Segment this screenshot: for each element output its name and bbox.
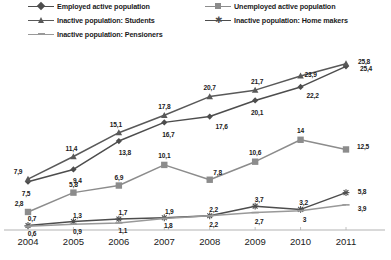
x-axis-tick-2006: 2006 <box>108 236 129 247</box>
legend-label-inactive-students: Inactive population: Students <box>57 16 155 25</box>
data-label: 1,8 <box>164 222 173 229</box>
data-label: 16,7 <box>162 131 174 138</box>
legend-item-inactive-home-makers: ✱ Inactive population: Home makers <box>205 16 348 25</box>
data-label: 1,3 <box>73 211 82 218</box>
data-label: 2,7 <box>255 217 264 224</box>
data-label: 13,8 <box>119 149 131 156</box>
data-label: 25,4 <box>360 65 372 72</box>
data-label: 17,6 <box>216 122 228 129</box>
legend-swatch-inactive-home-makers: ✱ <box>205 16 231 25</box>
data-label: 0,7 <box>28 215 37 222</box>
x-axis-tick-2009: 2009 <box>245 236 266 247</box>
dash-marker-icon <box>38 33 45 35</box>
data-label: 1,9 <box>165 207 174 214</box>
data-label: 5,8 <box>69 180 78 187</box>
data-label: 20,1 <box>251 109 263 116</box>
square-marker-icon <box>215 3 221 9</box>
x-axis-tick-2004: 2004 <box>17 236 38 247</box>
data-label: 2,2 <box>209 205 218 212</box>
data-label: 6,9 <box>114 173 123 180</box>
data-label: 21,7 <box>251 78 263 85</box>
chart-legend: Employed active population Unemployed ac… <box>0 0 391 42</box>
data-label: 10,6 <box>249 148 261 155</box>
data-label: 1,1 <box>118 226 127 233</box>
data-label: 22,2 <box>306 91 318 98</box>
x-axis-tick-2011: 2011 <box>336 236 356 247</box>
data-label: 14 <box>297 126 304 133</box>
x-axis-tick-2010: 2010 <box>290 236 311 247</box>
x-axis-tick-2008: 2008 <box>199 236 220 247</box>
data-label: 3,7 <box>255 196 264 203</box>
legend-item-unemployed-active-population: Unemployed active population <box>205 2 335 11</box>
data-label: 5,8 <box>358 187 367 194</box>
data-label: 1,7 <box>118 209 127 216</box>
data-label: 11,4 <box>65 144 77 151</box>
axis-and-data-labels: 200420052006200720082009201020117,59,413… <box>0 42 391 260</box>
data-label: 17,8 <box>158 103 170 110</box>
x-axis-tick-2007: 2007 <box>154 236 175 247</box>
legend-label-unemployed-active-population: Unemployed active population <box>234 2 335 11</box>
legend-label-inactive-pensioners: Inactive population: Pensioners <box>57 30 163 39</box>
data-label: 20,7 <box>204 83 216 90</box>
data-label: 7,5 <box>22 189 31 196</box>
data-label: 25,8 <box>358 57 370 64</box>
cross-marker-icon: ✱ <box>215 17 221 23</box>
data-label: 23,9 <box>304 70 316 77</box>
data-label: 2,8 <box>15 199 24 206</box>
data-label: 0,6 <box>28 230 37 237</box>
data-label: 10,1 <box>158 151 170 158</box>
legend-item-employed-active-population: Employed active population <box>28 2 150 11</box>
data-label: 7,9 <box>14 168 23 175</box>
data-label: 2,2 <box>209 220 218 227</box>
data-label: 0,9 <box>73 228 82 235</box>
triangle-marker-icon <box>38 17 44 23</box>
legend-swatch-inactive-students <box>28 16 54 25</box>
x-axis-tick-2005: 2005 <box>63 236 84 247</box>
line-chart: Employed active population Unemployed ac… <box>0 0 391 260</box>
legend-swatch-unemployed-active-population <box>205 2 231 11</box>
data-label: 3 <box>303 215 307 222</box>
data-label: 7,8 <box>213 168 222 175</box>
legend-label-inactive-home-makers: Inactive population: Home makers <box>234 16 348 25</box>
legend-swatch-inactive-pensioners <box>28 30 54 39</box>
legend-item-inactive-students: Inactive population: Students <box>28 16 155 25</box>
diamond-marker-icon <box>37 2 45 10</box>
legend-swatch-employed-active-population <box>28 2 54 11</box>
data-label: 12,5 <box>357 143 369 150</box>
data-label: 3,9 <box>358 204 367 211</box>
legend-item-inactive-pensioners: Inactive population: Pensioners <box>28 30 163 39</box>
legend-label-employed-active-population: Employed active population <box>57 2 150 11</box>
data-label: 3,2 <box>299 199 308 206</box>
data-label: 15,1 <box>110 120 122 127</box>
plot-area: 200420052006200720082009201020117,59,413… <box>0 42 391 260</box>
